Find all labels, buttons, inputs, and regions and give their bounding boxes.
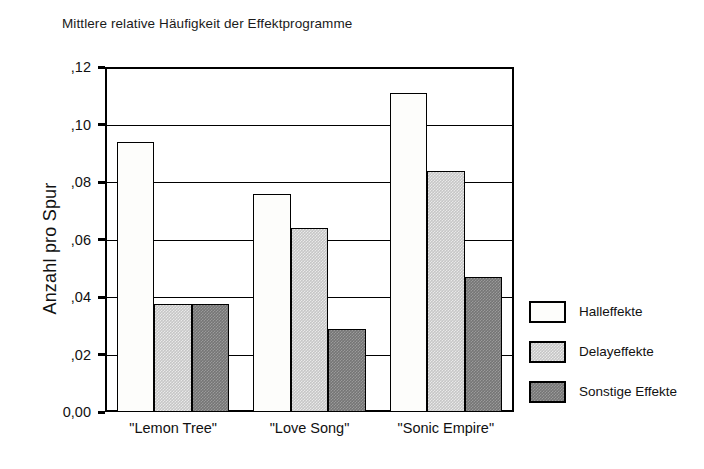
y-axis-tick-label: ,10 (35, 118, 91, 132)
bar (390, 93, 428, 412)
legend-item: Halleffekte (529, 300, 643, 324)
legend-label: Delayeffekte (579, 344, 654, 360)
legend-label: Halleffekte (579, 304, 643, 320)
gridline (105, 125, 514, 126)
bar (427, 171, 465, 413)
y-axis-tick-label: ,12 (35, 60, 91, 74)
bar-chart: Mittlere relative Häufigkeit der Effektp… (0, 0, 704, 469)
legend-item: Sonstige Effekte (529, 380, 677, 404)
chart-title: Mittlere relative Häufigkeit der Effektp… (62, 16, 352, 32)
legend-item: Delayeffekte (529, 340, 654, 364)
bar (117, 142, 155, 412)
y-axis-tick-mark (98, 238, 105, 241)
bar (154, 304, 192, 412)
bar (192, 304, 230, 412)
y-axis-tick-label: ,02 (35, 348, 91, 362)
y-axis-tick-mark (98, 123, 105, 126)
y-axis-tick-mark (98, 411, 105, 414)
legend-swatch (529, 301, 566, 323)
y-axis-tick-mark (98, 296, 105, 299)
legend-swatch (529, 341, 566, 363)
y-axis-tick-label: 0,00 (35, 405, 91, 419)
y-axis-tick-label: ,04 (35, 290, 91, 304)
y-axis-tick-mark (98, 353, 105, 356)
y-axis-tick-label: ,06 (35, 233, 91, 247)
bar (253, 194, 291, 413)
bar (328, 329, 366, 412)
x-axis-category-label: "Sonic Empire" (361, 420, 531, 437)
y-axis-tick-mark (98, 66, 105, 69)
y-axis-tick-mark (98, 181, 105, 184)
bar (465, 277, 503, 412)
plot-area (105, 67, 514, 412)
bar (291, 228, 329, 412)
y-axis-tick-label: ,08 (35, 175, 91, 189)
legend-swatch (529, 381, 566, 403)
legend-label: Sonstige Effekte (579, 384, 677, 400)
y-axis-title: Anzahl pro Spur (40, 139, 61, 359)
